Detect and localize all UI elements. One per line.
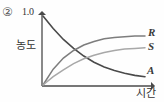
curve-label-r: R xyxy=(148,27,155,38)
y-axis-max-tick-label: 1.0 xyxy=(22,7,34,17)
curve-R-path xyxy=(43,36,145,85)
curve-A-path xyxy=(43,16,145,77)
y-axis-title: 농도 xyxy=(16,40,36,51)
figure-container: ② 1.0 농도 시간 R S A xyxy=(0,0,164,102)
figure-number-label: ② xyxy=(2,6,13,18)
curve-label-a: A xyxy=(147,65,154,76)
x-axis-title: 시간 xyxy=(136,88,156,99)
curve-label-s: S xyxy=(148,41,154,52)
curve-S-path xyxy=(43,48,145,85)
